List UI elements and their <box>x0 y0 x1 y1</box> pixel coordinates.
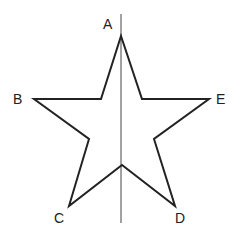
label-d: D <box>175 211 185 225</box>
label-b: B <box>13 92 22 106</box>
label-a: A <box>103 17 112 31</box>
star-diagram: A B E C D <box>0 0 242 237</box>
star-figure <box>0 0 242 237</box>
label-c: C <box>54 211 64 225</box>
label-e: E <box>216 92 225 106</box>
